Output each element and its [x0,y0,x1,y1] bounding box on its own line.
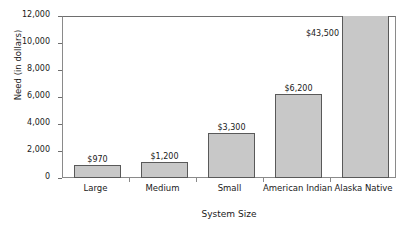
y-tick-label-10000: 10,000 [8,37,50,46]
y-tick-label-0: 0 [8,172,50,181]
x-category-small: Small [196,183,263,193]
x-tick-mark-1 [129,178,130,182]
x-category-alaska-native: Alaska Native [330,183,397,193]
bar-chart: Need (in dollars) 0 2,000 4,000 6,000 8,… [0,0,409,231]
y-tick-label-6000: 6,000 [8,91,50,100]
y-tick-label-12000: 12,000 [8,10,50,19]
x-axis-title: System Size [62,209,396,219]
bar-small[interactable] [208,133,255,178]
x-tick-mark-3 [263,178,264,182]
bar-value-american-indian: $6,200 [275,84,322,93]
y-tick-label-8000: 8,000 [8,64,50,73]
bar-value-alaska-native: $43,500 [292,29,339,38]
x-category-american-indian: American Indian [263,183,330,193]
bar-value-small: $3,300 [208,123,255,132]
y-tick-label-4000: 4,000 [8,118,50,127]
bar-value-large: $970 [74,155,121,164]
x-tick-mark-4 [330,178,331,182]
bar-american-indian[interactable] [275,94,322,178]
bar-medium[interactable] [141,162,188,178]
bar-value-medium: $1,200 [141,152,188,161]
y-tick-mark-0 [58,178,62,179]
y-tick-label-2000: 2,000 [8,145,50,154]
bar-large[interactable] [74,165,121,178]
x-category-medium: Medium [129,183,196,193]
x-category-large: Large [62,183,129,193]
x-tick-mark-2 [196,178,197,182]
bar-alaska-native[interactable] [342,16,389,178]
